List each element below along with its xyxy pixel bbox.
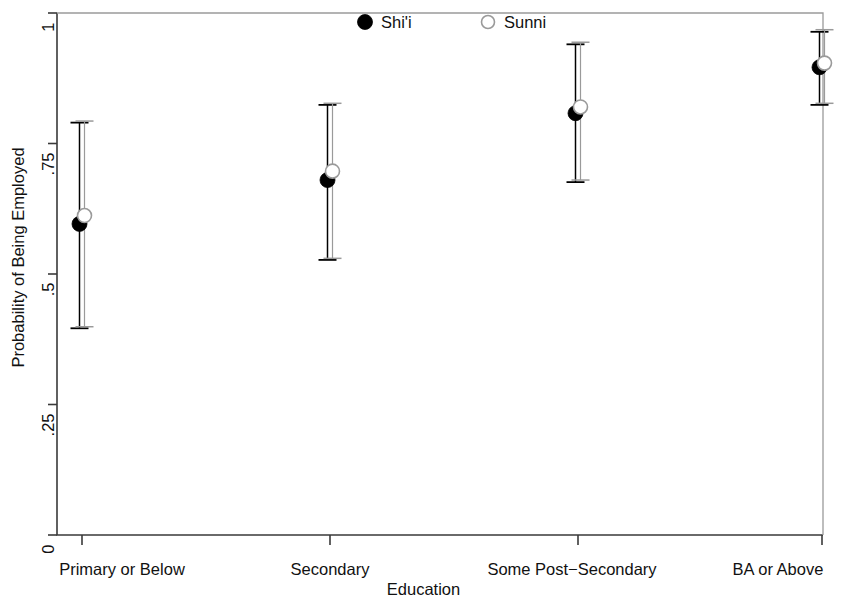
legend-marker-sunni <box>482 16 495 29</box>
data-point-sunni-1[interactable] <box>326 164 340 178</box>
legend-marker-shii <box>358 15 373 30</box>
employment-probability-chart: Probability of Being Employed 1 .75 .5 .… <box>0 0 847 609</box>
axis-frame-top-right <box>57 13 823 535</box>
data-point-sunni-3[interactable] <box>818 56 832 70</box>
data-point-sunni-0[interactable] <box>78 209 92 223</box>
plot-svg <box>0 0 847 609</box>
axis-frame-left-bottom <box>57 13 823 535</box>
data-point-sunni-2[interactable] <box>574 100 588 114</box>
